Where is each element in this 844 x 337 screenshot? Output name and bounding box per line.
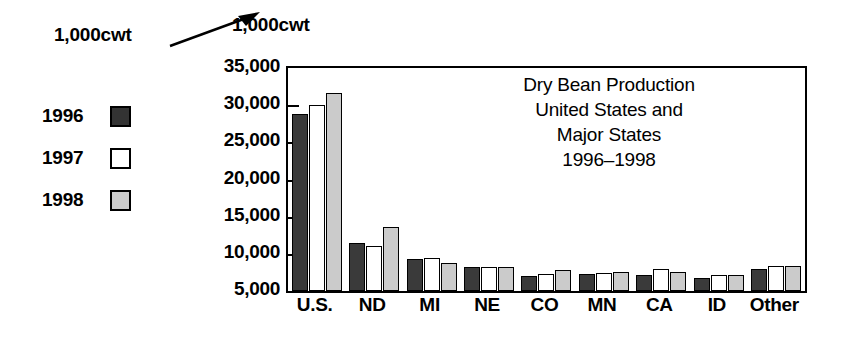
bar-NE-1998 — [498, 267, 514, 291]
chart-figure: 1,000cwt 1996 1997 1998 1,000cwt 35,0003… — [0, 0, 844, 337]
x-tick-label: MN — [587, 294, 616, 316]
x-tick-label: U.S. — [297, 294, 333, 316]
y-tick-label: 20,000 — [188, 167, 280, 189]
bar-Other-1996 — [751, 269, 767, 291]
y-tick-label: 15,000 — [188, 204, 280, 226]
legend-item-1996: 1996 — [42, 95, 202, 137]
chart-title: Dry Bean Production United States and Ma… — [466, 72, 752, 172]
x-tick-label: ID — [708, 294, 726, 316]
legend-label-1997: 1997 — [42, 147, 104, 169]
chart-title-line-3: Major States — [466, 122, 752, 147]
y-tick-label: 10,000 — [188, 241, 280, 263]
bar-CA-1996 — [636, 275, 652, 291]
bar-US-1998 — [326, 93, 342, 291]
bar-MN-1996 — [579, 274, 595, 291]
legend-label-1998: 1998 — [42, 189, 104, 211]
bar-NE-1996 — [464, 267, 480, 291]
legend-swatch-1998 — [110, 190, 131, 211]
bar-Other-1997 — [768, 266, 784, 291]
bar-ID-1998 — [728, 275, 744, 291]
legend-swatch-1996 — [110, 106, 131, 127]
x-tick-label: Other — [750, 294, 799, 316]
legend-swatch-1997 — [110, 148, 131, 169]
annotation-label: 1,000cwt — [54, 24, 132, 46]
chart-title-line-2: United States and — [466, 97, 752, 122]
x-tick-label: ND — [359, 294, 386, 316]
x-tick-label: MI — [419, 294, 440, 316]
bar-group — [748, 68, 805, 291]
y-axis-labels: 35,00030,00025,00020,00015,00010,0005,00… — [180, 0, 280, 337]
x-tick-label: NE — [474, 294, 500, 316]
chart-legend: 1996 1997 1998 — [42, 95, 202, 221]
bar-ND-1998 — [383, 227, 399, 291]
bar-group — [345, 68, 402, 291]
bar-ND-1996 — [349, 243, 365, 291]
bar-CO-1998 — [555, 270, 571, 291]
bar-group — [403, 68, 460, 291]
bar-ID-1997 — [711, 275, 727, 291]
bar-CO-1996 — [521, 276, 537, 291]
x-tick-label: CO — [531, 294, 559, 316]
chart-title-line-1: Dry Bean Production — [466, 72, 752, 97]
bar-CA-1998 — [670, 272, 686, 291]
bar-Other-1998 — [785, 266, 801, 291]
bar-CO-1997 — [538, 274, 554, 291]
bar-MI-1996 — [407, 259, 423, 291]
chart-title-line-4: 1996–1998 — [466, 147, 752, 172]
bar-US-1996 — [292, 114, 308, 291]
bar-NE-1997 — [481, 267, 497, 291]
y-tick-label: 25,000 — [188, 129, 280, 151]
y-tick-label: 30,000 — [188, 92, 280, 114]
bar-MI-1997 — [424, 258, 440, 291]
y-tick-label: 35,000 — [188, 55, 280, 77]
x-tick-label: CA — [646, 294, 673, 316]
bar-ID-1996 — [694, 278, 710, 291]
bar-MN-1998 — [613, 272, 629, 291]
y-tick-label: 5,000 — [188, 278, 280, 300]
bar-ND-1997 — [366, 246, 382, 291]
legend-label-1996: 1996 — [42, 105, 104, 127]
bar-group — [288, 68, 345, 291]
legend-item-1998: 1998 — [42, 179, 202, 221]
legend-item-1997: 1997 — [42, 137, 202, 179]
bar-MI-1998 — [441, 263, 457, 291]
bar-CA-1997 — [653, 269, 669, 291]
bar-MN-1997 — [596, 273, 612, 291]
bar-US-1997 — [309, 105, 325, 291]
